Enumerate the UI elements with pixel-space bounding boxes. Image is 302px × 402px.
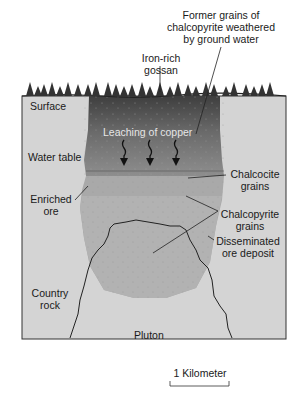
label-surface: Surface (30, 100, 66, 112)
label-line: rock (28, 299, 72, 311)
label-line: Former grains of (160, 9, 282, 21)
label-gossan: Iron-rich gossan (136, 52, 186, 76)
label-line: Enriched (28, 193, 74, 205)
label-line: Chalcocite (226, 168, 284, 180)
label-line: gossan (136, 64, 186, 76)
label-former-grains: Former grains of chalcopyrite weathered … (160, 9, 282, 45)
label-line: by ground water (160, 33, 282, 45)
tree-row (26, 82, 274, 96)
label-line: Country (28, 287, 72, 299)
label-water-table: Water table (28, 151, 81, 163)
label-pluton: Pluton (134, 329, 164, 341)
label-line: ore (28, 205, 74, 217)
label-chalcopyrite: Chalcopyrite grains (216, 208, 284, 232)
label-line: grains (226, 180, 284, 192)
label-chalcocite: Chalcocite grains (226, 168, 284, 192)
label-line: chalcopyrite weathered (160, 21, 282, 33)
label-country-rock: Country rock (28, 287, 72, 311)
label-line: grains (216, 220, 284, 232)
label-line: Chalcopyrite (216, 208, 284, 220)
label-leaching: Leaching of copper (103, 126, 192, 138)
label-line: ore deposit (214, 247, 282, 259)
scale-bar-label: 1 Kilometer (170, 367, 230, 379)
label-disseminated: Disseminated ore deposit (214, 235, 282, 259)
label-enriched-ore: Enriched ore (28, 193, 74, 217)
cross-section-diagram: Former grains of chalcopyrite weathered … (0, 0, 302, 402)
label-line: Iron-rich (136, 52, 186, 64)
label-line: Disseminated (214, 235, 282, 247)
scale-bar (170, 381, 229, 386)
